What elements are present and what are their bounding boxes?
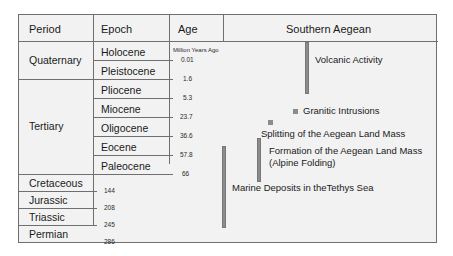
age-axis-caption: Million Years Ago [173,46,219,54]
age-value-2: 5.3 [183,94,192,102]
age-value-4: 36.6 [180,132,193,140]
rule-tertiary-bottom [19,174,169,175]
age-value-10: 286 [104,238,115,246]
rule-eocene-bottom [93,155,169,156]
age-tick-10 [91,242,97,243]
period-jurassic: Jurassic [29,194,68,206]
age-tick-4 [167,136,173,137]
granitic-intrusions-marker [293,109,298,114]
event-label-marine-deposits: Marine Deposits in theTethys Sea [232,182,374,194]
age-tick-3 [167,117,173,118]
event-label-volcanic-activity: Volcanic Activity [315,54,383,66]
epoch-paleocene: Paleocene [101,160,151,172]
event-label-granitic-intrusions: Granitic Intrusions [303,105,380,117]
epoch-holocene: Holocene [101,46,145,58]
age-tick-0 [167,60,173,61]
rule-oligocene-bottom [93,136,169,137]
age-tick-2 [167,98,173,99]
epoch-eocene: Eocene [101,141,137,153]
header-age: Age [178,23,198,35]
rule-pliocene-bottom [93,98,169,99]
age-value-3: 23.7 [180,113,193,121]
period-tertiary: Tertiary [29,120,63,132]
age-value-9: 245 [104,221,115,229]
epoch-oligocene: Oligocene [101,122,148,134]
rule-holocene-bottom [93,60,169,61]
period-quaternary: Quaternary [29,54,82,66]
header-period: Period [29,23,61,35]
rule-triassic-bottom [19,225,93,226]
splitting-aegean-marker [268,120,273,125]
column-divider-age-region [223,15,224,41]
epoch-miocene: Miocene [101,103,141,115]
epoch-pleistocene: Pleistocene [101,65,155,77]
event-label-formation-aegean-line1: Formation of the Aegean Land Mass [269,145,422,157]
rule-cretaceous-bottom [19,191,93,192]
event-label-formation-aegean-line2: (Alpine Folding) [269,157,336,169]
age-tick-5 [167,155,173,156]
age-value-1: 1.6 [183,75,192,83]
header-epoch: Epoch [101,23,132,35]
rule-jurassic-bottom [19,208,93,209]
age-tick-9 [91,225,97,226]
period-triassic: Triassic [29,211,65,223]
timescale-table: Period Epoch Age Southern Aegean Quatern… [18,14,437,243]
header-bottom-rule [19,41,438,42]
header-region: Southern Aegean [286,23,371,35]
event-label-splitting-aegean: Splitting of the Aegean Land Mass [261,128,405,140]
epoch-pliocene: Pliocene [101,84,141,96]
age-tick-1 [167,79,173,80]
age-tick-7 [91,191,97,192]
age-tick-6 [167,174,173,175]
age-value-8: 208 [104,204,115,212]
period-permian: Permian [29,228,68,240]
period-cretaceous: Cretaceous [29,177,83,189]
formation-aegean-bar [257,138,261,182]
column-divider-epoch-age [169,15,170,164]
volcanic-activity-bar [305,42,309,94]
age-value-7: 144 [104,187,115,195]
age-value-5: 57.8 [180,151,193,159]
rule-miocene-bottom [93,117,169,118]
age-value-0: 0.01 [181,56,194,64]
rule-quaternary-bottom [19,79,169,80]
rule-permian-bottom [19,242,93,243]
geological-timescale-figure: Period Epoch Age Southern Aegean Quatern… [0,0,453,256]
age-tick-8 [91,208,97,209]
age-value-6: 66 [182,170,189,178]
marine-deposits-bar [222,146,226,228]
